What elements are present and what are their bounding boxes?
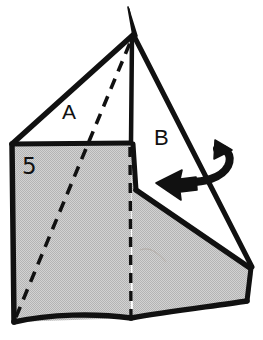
flap-b-left-edge <box>133 144 136 190</box>
flap-a-label: A <box>62 101 76 122</box>
outer-left-edge <box>12 144 14 322</box>
flap-b-label: B <box>154 127 169 149</box>
center-spine-edge <box>131 36 132 143</box>
horizontal-fold-edge <box>13 143 131 144</box>
step-number-label: 5 <box>22 155 37 178</box>
origami-drawing <box>0 0 263 340</box>
origami-figure: A B 5 <box>0 0 263 340</box>
